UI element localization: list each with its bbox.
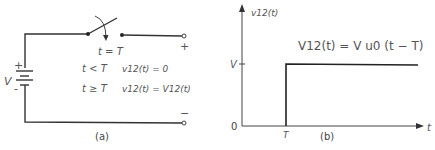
arrow-head-icon xyxy=(103,35,109,41)
condition-2-eq: v12(t) = V12(t) xyxy=(122,84,191,94)
x-tick-T-label: T xyxy=(283,130,290,140)
switch-blade xyxy=(88,18,117,34)
diagram-canvas: + - V t = T + − t < T v12(t) = 0 t ≥ T v… xyxy=(0,0,435,150)
terminal-plus xyxy=(182,34,186,38)
switch-label: t = T xyxy=(98,46,124,57)
battery-minus-label: - xyxy=(14,82,18,95)
condition-2-when: t ≥ T xyxy=(82,83,108,94)
caption-a: (a) xyxy=(95,131,109,142)
terminal-minus xyxy=(182,121,186,125)
y-axis-arrow-icon xyxy=(239,4,245,12)
graph-panel-b: v12(t) t V 0 T V12(t) = V u0 (t − T) (b) xyxy=(230,4,432,142)
battery-icon xyxy=(16,71,33,85)
x-axis-arrow-icon xyxy=(416,123,424,129)
source-label: V xyxy=(4,75,13,88)
battery-plus-label: + xyxy=(14,59,23,72)
condition-1-when: t < T xyxy=(82,63,108,74)
top-right-wire xyxy=(122,35,182,36)
y-tick-V-label: V xyxy=(230,59,238,70)
x-axis-label: t xyxy=(427,122,432,133)
caption-b: (b) xyxy=(320,131,334,142)
output-minus-label: − xyxy=(180,107,189,120)
circuit-panel-a: + - V t = T + − t < T v12(t) = 0 t ≥ T v… xyxy=(4,16,191,142)
top-left-wire xyxy=(25,34,88,68)
condition-1-eq: v12(t) = 0 xyxy=(122,64,169,74)
y-axis-label: v12(t) xyxy=(251,8,278,18)
step-equation: V12(t) = V u0 (t − T) xyxy=(298,39,423,53)
output-plus-label: + xyxy=(180,40,189,53)
origin-label: 0 xyxy=(231,121,237,132)
step-function-line xyxy=(286,64,418,126)
switch-pivot xyxy=(86,32,90,36)
